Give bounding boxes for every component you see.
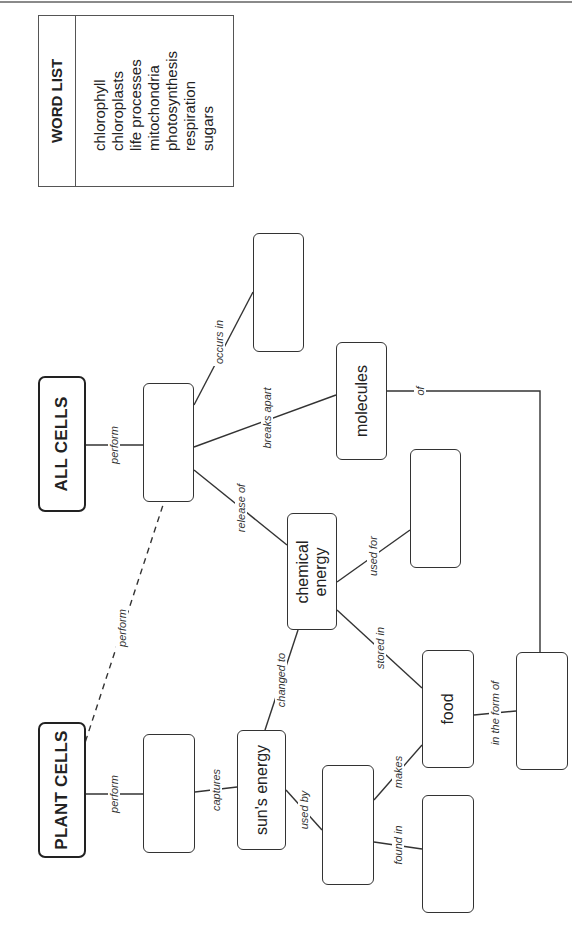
used-by-blank[interactable] [322, 765, 374, 885]
word-list-item: sugars [199, 51, 217, 151]
chemical-energy-label: chemical energy [294, 540, 331, 603]
food-label: food [439, 693, 457, 724]
word-list-item: mitochondria [145, 51, 163, 151]
plant-cells-label: PLANT CELLS [52, 730, 72, 849]
in-the-form-of-blank[interactable] [516, 652, 568, 770]
link-label-in-the-form-of: in the form of [489, 679, 501, 747]
suns-energy-label: sun's energy [252, 745, 270, 835]
molecules-label: molecules [352, 365, 370, 437]
chemical-energy-line2: energy [312, 540, 330, 603]
word-list-item: life processes [127, 51, 145, 151]
link-label-plant-cells-perform: perform [108, 773, 120, 815]
used-for-blank[interactable] [410, 449, 461, 568]
link-label-changed-to: changed to [275, 651, 287, 709]
word-list-item: chlorophyll [91, 51, 109, 151]
all-cells-node: ALL CELLS [38, 376, 86, 512]
all-cells-label: ALL CELLS [52, 397, 72, 492]
link-label-release-of: release of [235, 482, 247, 534]
word-list-item: photosynthesis [163, 51, 181, 151]
plant-cells-process-blank[interactable] [143, 734, 195, 853]
link-label-of: of [414, 384, 426, 397]
occurs-in-blank[interactable] [253, 233, 304, 352]
link-label-found-in: found in [392, 823, 404, 866]
word-list-item: respiration [181, 51, 199, 151]
link-label-all-cells-perform: perform [108, 424, 120, 466]
link-label-makes: makes [392, 754, 404, 790]
word-list-header: WORD LIST [39, 16, 76, 186]
found-in-blank[interactable] [422, 795, 474, 913]
plant-cells-node: PLANT CELLS [38, 722, 86, 858]
link-label-stored-in: stored in [374, 625, 386, 671]
all-cells-process-blank[interactable] [143, 383, 194, 502]
word-list-item: chloroplasts [109, 51, 127, 151]
suns-energy-node: sun's energy [237, 730, 286, 850]
link-label-breaks-apart: breaks apart [261, 385, 273, 450]
food-node: food [422, 650, 474, 768]
link-label-captures: captures [210, 767, 222, 813]
link-label-used-for: used for [367, 534, 379, 578]
word-list-words: chlorophyll chloroplasts life processes … [75, 16, 233, 186]
link-label-used-by: used by [298, 789, 310, 832]
link-label-occurs-in: occurs in [213, 318, 225, 366]
chemical-energy-line1: chemical [294, 540, 312, 603]
link-label-perform-dashed: perform [116, 607, 128, 649]
word-list-title: WORD LIST [48, 59, 65, 143]
chemical-energy-node: chemical energy [287, 513, 337, 630]
word-list-box: WORD LIST chlorophyll chloroplasts life … [38, 15, 234, 187]
molecules-node: molecules [336, 342, 387, 460]
